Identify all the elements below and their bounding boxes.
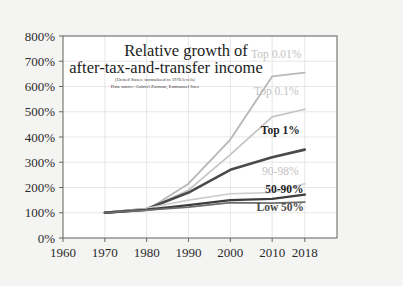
y-tick-label: 200% — [25, 180, 56, 195]
series-label-low-50: Low 50% — [257, 201, 305, 213]
y-tick-label: 0% — [38, 231, 56, 246]
series-label-90-98: 90-98% — [262, 165, 299, 177]
x-axis-ticks: 1960197019801990200020102018 — [50, 238, 318, 260]
y-tick-label: 100% — [25, 205, 56, 220]
x-tick-label: 1960 — [50, 245, 76, 260]
y-tick-label: 500% — [25, 104, 56, 119]
x-tick-label: 1970 — [92, 245, 118, 260]
x-tick-label: 1980 — [134, 245, 160, 260]
title-line-2: after-tax-and-transfer income — [69, 58, 262, 77]
x-tick-label: 2018 — [292, 245, 318, 260]
x-tick-label: 2000 — [217, 245, 243, 260]
x-tick-label: 2010 — [259, 245, 285, 260]
series-label-50-90: 50-90% — [265, 183, 303, 195]
chart-canvas: 0%100%200%300%400%500%600%700%800% 19601… — [0, 0, 403, 286]
y-tick-label: 700% — [25, 54, 56, 69]
subtitle-line-1: (United States; normalized to 1970 level… — [115, 77, 195, 82]
series-label-top-0-1: Top 0.1% — [254, 85, 299, 98]
y-tick-label: 400% — [25, 130, 56, 145]
chart-figure: 0%100%200%300%400%500%600%700%800% 19601… — [0, 0, 403, 286]
y-tick-label: 800% — [25, 29, 56, 44]
x-tick-label: 1990 — [175, 245, 201, 260]
y-tick-label: 300% — [25, 155, 56, 170]
y-axis-ticks: 0%100%200%300%400%500%600%700%800% — [25, 29, 63, 246]
y-tick-label: 600% — [25, 79, 56, 94]
series-label-top-1: Top 1% — [261, 124, 300, 137]
